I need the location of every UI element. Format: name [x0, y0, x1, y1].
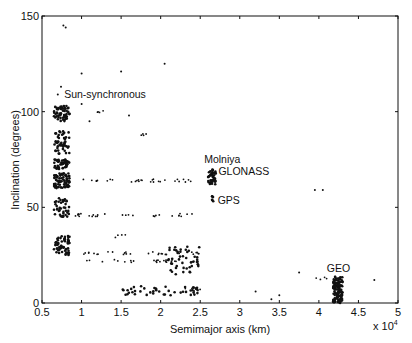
x-multiplier: x 104 [373, 319, 398, 332]
annotation-label: Molniya [204, 153, 240, 165]
x-tick-label: 4.5 [351, 306, 366, 318]
x-tick-label: 3 [237, 306, 243, 318]
x-axis-label: Semimajor axis (km) [170, 323, 270, 335]
x-tick-label: 3.5 [272, 306, 287, 318]
x-tick-label: 4 [316, 306, 322, 318]
y-tick-label: 50 [27, 201, 39, 213]
annotation-label: Sun-synchronous [64, 88, 146, 100]
annotation-label: GPS [218, 194, 240, 206]
x-tick-label: 1.5 [113, 306, 128, 318]
y-axis-label: Inclination (degrees) [9, 110, 21, 210]
y-tick-label: 0 [33, 297, 39, 309]
annotation-label: GLONASS [218, 165, 269, 177]
x-tick-label: 5 [395, 306, 401, 318]
annotation-label: GEO [327, 262, 350, 274]
y-tick-label: 150 [21, 10, 39, 22]
x-tick-label: 2 [158, 306, 164, 318]
y-tick-label: 100 [21, 106, 39, 118]
scatter-chart: 0.511.522.533.544.55 050100150 Semimajor… [0, 0, 412, 343]
x-tick-label: 1 [78, 306, 84, 318]
x-tick-label: 2.5 [193, 306, 208, 318]
